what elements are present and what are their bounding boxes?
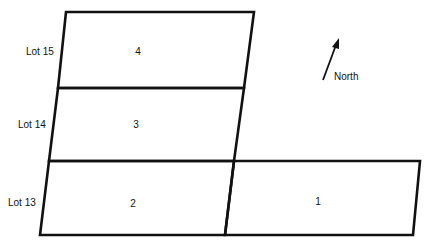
north-label: North [334,71,358,82]
parcel-1-outline [225,161,420,235]
lot-map-drawing [0,0,427,245]
parcel-3-outline [49,88,244,161]
row-label-lot-13: Lot 13 [8,197,36,208]
parcel-4-outline [58,12,254,88]
parcel-1-label: 1 [315,196,321,207]
parcel-2-label: 2 [130,198,136,209]
row-label-lot-15: Lot 15 [26,46,54,57]
parcel-4-label: 4 [135,46,141,57]
parcel-2-outline [40,161,234,235]
row-label-lot-14: Lot 14 [18,119,46,130]
parcel-3-label: 3 [133,119,139,130]
